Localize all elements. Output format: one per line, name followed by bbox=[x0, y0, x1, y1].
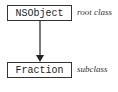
fraction-class-box: Fraction bbox=[7, 62, 72, 78]
inheritance-arrow bbox=[0, 0, 118, 92]
subclass-label: subclass bbox=[77, 64, 108, 74]
fraction-class-name: Fraction bbox=[15, 65, 63, 76]
arrowhead-icon bbox=[36, 55, 44, 62]
